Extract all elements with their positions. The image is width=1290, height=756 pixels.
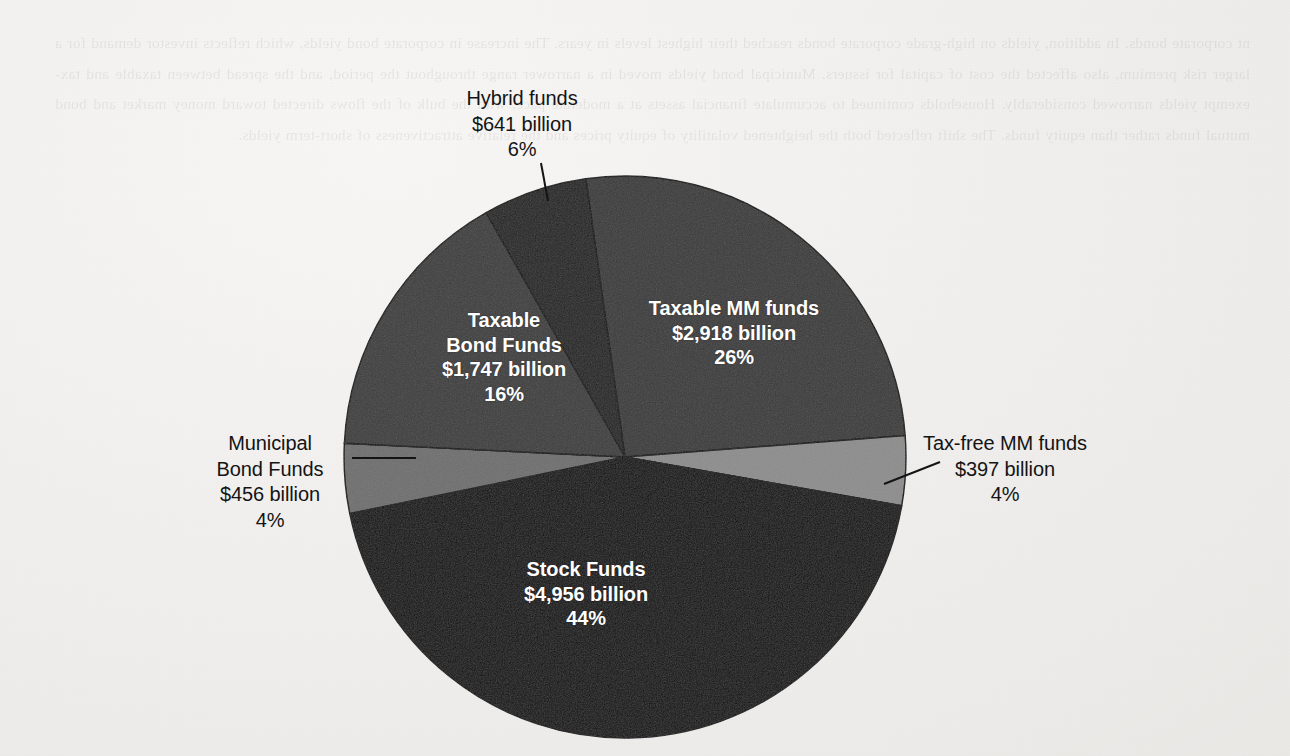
slice-percent-line: 44% [489,606,683,631]
pie-slices-group [344,176,906,738]
slice-label-taxable-mm-funds: Taxable MM funds $2,918 billion 26% [641,296,827,370]
slice-label-line: Hybrid funds [413,86,631,112]
slice-label-municipal-bond-funds: Municipal Bond Funds $456 billion 4% [172,431,368,533]
slice-value-line: $641 billion [413,112,631,138]
slice-value-line: $1,747 billion [401,357,607,382]
slice-value-line: $456 billion [172,482,368,508]
slice-label-line: Taxable MM funds [641,296,827,321]
slice-percent-line: 6% [413,137,631,163]
slice-percent-line: 4% [172,508,368,534]
pie-chart: Taxable MM funds $2,918 billion 26% Taxa… [0,0,1290,756]
slice-label-line-2: Bond Funds [172,457,368,483]
slice-label-line-2: Bond Funds [401,333,607,358]
slice-value-line: $2,918 billion [641,321,827,346]
slice-label-tax-free-mm-funds: Tax-free MM funds $397 billion 4% [903,431,1107,508]
pie-chart-svg [0,0,1290,756]
slice-label-line: Taxable [401,308,607,333]
slice-label-line: Municipal [172,431,368,457]
slice-percent-line: 16% [401,382,607,407]
slice-label-line: Stock Funds [489,557,683,582]
slice-percent-line: 4% [903,482,1107,508]
slice-label-taxable-bond-funds: Taxable Bond Funds $1,747 billion 16% [401,308,607,406]
slice-label-stock-funds: Stock Funds $4,956 billion 44% [489,557,683,631]
slice-value-line: $4,956 billion [489,582,683,607]
slice-label-hybrid-funds: Hybrid funds $641 billion 6% [413,86,631,163]
slice-label-line: Tax-free MM funds [903,431,1107,457]
slice-value-line: $397 billion [903,457,1107,483]
slice-percent-line: 26% [641,345,827,370]
